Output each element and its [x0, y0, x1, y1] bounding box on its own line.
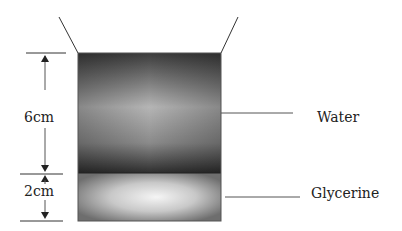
- water-label: Water: [317, 110, 359, 124]
- glycerine-layer: [78, 173, 221, 221]
- water-layer: [78, 53, 221, 173]
- container-right-wall: [221, 17, 238, 53]
- water-height-label: 6cm: [24, 110, 54, 124]
- container-left-wall: [59, 17, 78, 53]
- glycerine-label: Glycerine: [311, 186, 379, 200]
- glycerine-height-label: 2cm: [24, 184, 54, 198]
